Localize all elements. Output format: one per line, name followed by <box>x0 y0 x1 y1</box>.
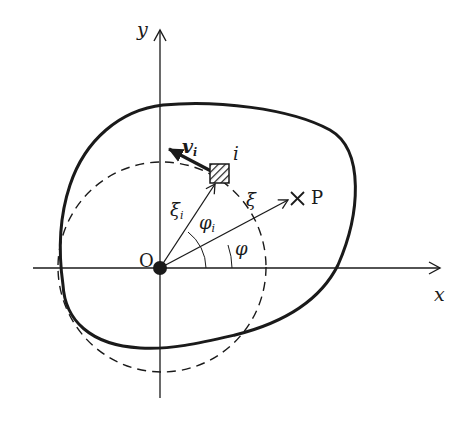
point-p-marker-icon <box>291 192 304 205</box>
point-p-label: P <box>311 189 323 207</box>
phi-i-label: φi <box>199 214 215 234</box>
angle-arc-phi-i <box>188 232 206 268</box>
phi-label: φ <box>235 240 248 258</box>
xi-label: ξ <box>246 191 256 209</box>
origin-dot <box>153 261 167 275</box>
x-axis-label: x <box>434 285 445 304</box>
xi-i-label: ξi <box>170 201 183 221</box>
diagram-canvas: y x O vi i ξi φi ξ φ P <box>0 0 473 422</box>
diagram-svg <box>0 0 473 422</box>
y-axis-label: y <box>137 20 148 39</box>
angle-arc-phi <box>228 245 232 268</box>
element-square <box>210 164 229 183</box>
velocity-label: vi <box>182 137 197 158</box>
origin-label: O <box>139 252 154 270</box>
element-label: i <box>233 145 239 163</box>
